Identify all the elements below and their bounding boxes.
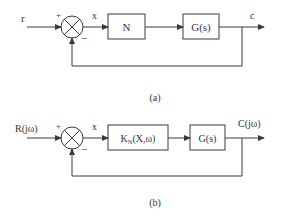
input-label-b: R(jω) (15, 123, 38, 135)
summing-junction-b (61, 127, 83, 149)
input-label-a: r (21, 12, 25, 24)
plus-sign-a: + (56, 10, 61, 20)
error-label-a: x (92, 10, 97, 21)
block-g-b-label: G(s) (199, 133, 217, 145)
block-n-label: N (123, 21, 131, 33)
output-label-a: c (250, 10, 255, 21)
error-label-b: x (92, 121, 97, 132)
feedback-path-b (72, 138, 242, 176)
plus-sign-b: + (56, 121, 61, 131)
output-label-b: C(jω) (238, 118, 261, 130)
block-diagrams: r + − x N G(s) c (a) R(jω) + − x KN(X,ω)… (0, 0, 290, 219)
feedback-path-a (72, 27, 242, 66)
summing-junction-a (61, 16, 83, 38)
kn-args: (X,ω) (132, 133, 155, 145)
caption-a: (a) (149, 92, 160, 104)
minus-sign-b: − (81, 143, 87, 155)
diagram-a (27, 14, 264, 66)
caption-b: (b) (149, 197, 161, 209)
block-g-a-label: G(s) (191, 21, 211, 34)
block-kn-label: KN(X,ω) (121, 133, 156, 145)
minus-sign-a: − (81, 32, 87, 44)
